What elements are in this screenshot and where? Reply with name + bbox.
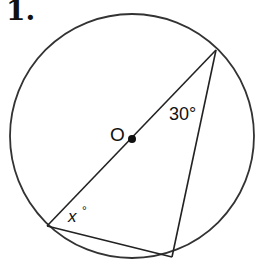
angle-label-x: x [67, 207, 77, 226]
geometry-figure: 1. O 30° x ° [0, 0, 260, 276]
chord-bottom [47, 226, 172, 257]
center-label: O [110, 124, 125, 145]
angle-degree-symbol: ° [82, 204, 87, 218]
circle-diagram: O 30° x ° [0, 0, 260, 276]
chord-right [172, 50, 216, 257]
center-point [128, 135, 136, 143]
problem-number: 1. [6, 0, 35, 27]
angle-label-30: 30° [169, 104, 196, 124]
